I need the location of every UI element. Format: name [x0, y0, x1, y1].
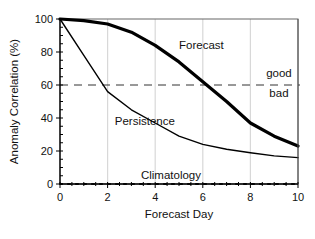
y-tick-label: 20 [41, 145, 53, 157]
y-tick-label: 40 [41, 112, 53, 124]
x-tick-label: 10 [292, 191, 304, 203]
x-tick-label: 4 [152, 191, 158, 203]
y-tick-label: 60 [41, 79, 53, 91]
anomaly-correlation-chart: 0204060801000246810 Forecast Day Anomaly… [0, 0, 315, 239]
y-tick-label: 80 [41, 46, 53, 58]
tick-marks [56, 19, 298, 188]
label-climatology: Climatology [141, 169, 201, 181]
y-tick-label: 100 [35, 13, 53, 25]
y-tick-label: 0 [47, 178, 53, 190]
label-bad: bad [269, 87, 288, 99]
x-axis-title: Forecast Day [145, 208, 214, 220]
label-forecast: Forecast [179, 39, 225, 51]
label-good: good [266, 67, 292, 79]
y-axis-title: Anomaly Correlation (%) [8, 39, 20, 164]
x-tick-label: 0 [57, 191, 63, 203]
x-tick-label: 8 [247, 191, 253, 203]
label-persistence: Persistence [115, 115, 175, 127]
x-tick-label: 2 [105, 191, 111, 203]
x-tick-label: 6 [200, 191, 206, 203]
